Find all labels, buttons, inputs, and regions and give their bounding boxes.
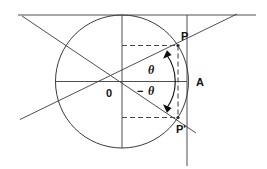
geometry-figure: 0 P P' A θ − θ bbox=[0, 0, 267, 169]
secant-line-through-p bbox=[20, 14, 237, 120]
angle-arc-arrowhead-upper bbox=[163, 50, 172, 59]
secant-line-through-p-prime bbox=[22, 16, 196, 133]
point-marker-p-prime bbox=[176, 116, 179, 119]
label-angle-negative-theta: θ bbox=[148, 84, 155, 98]
label-angle-theta: θ bbox=[148, 63, 155, 77]
label-point-a: A bbox=[196, 76, 204, 88]
label-point-p-prime: P' bbox=[176, 123, 186, 135]
point-marker-p bbox=[176, 44, 179, 47]
unit-circle-diagram: 0 P P' A θ − θ bbox=[0, 0, 267, 169]
label-origin: 0 bbox=[106, 87, 112, 99]
label-angle-minus-sign: − bbox=[137, 85, 143, 97]
label-point-p: P bbox=[181, 30, 188, 42]
